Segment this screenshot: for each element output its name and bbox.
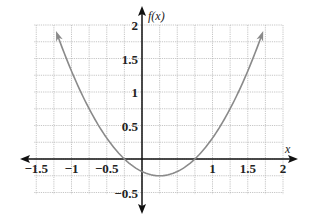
x-tick-label: 2 <box>280 161 287 176</box>
x-tick-label: −0.5 <box>95 161 119 176</box>
axes <box>20 6 298 214</box>
parabola-chart: −1.5−1−0.511.5221.510.5−0.5 x f(x) <box>0 0 312 219</box>
x-tick-label: 1.5 <box>240 161 257 176</box>
x-axis-label: x <box>284 142 291 156</box>
y-tick-label: 1 <box>132 85 139 100</box>
x-tick-label: 1 <box>209 161 216 176</box>
x-tick-label: −1.5 <box>24 161 48 176</box>
y-tick-label: 2 <box>132 18 139 33</box>
function-curve <box>56 31 263 176</box>
y-tick-label: 0.5 <box>122 119 139 134</box>
tick-labels: −1.5−1−0.511.5221.510.5−0.5 <box>24 18 286 201</box>
x-tick-label: −1 <box>65 161 79 176</box>
y-tick-label: −0.5 <box>114 186 138 201</box>
y-tick-label: 1.5 <box>122 52 139 67</box>
y-axis-label: f(x) <box>148 9 165 23</box>
